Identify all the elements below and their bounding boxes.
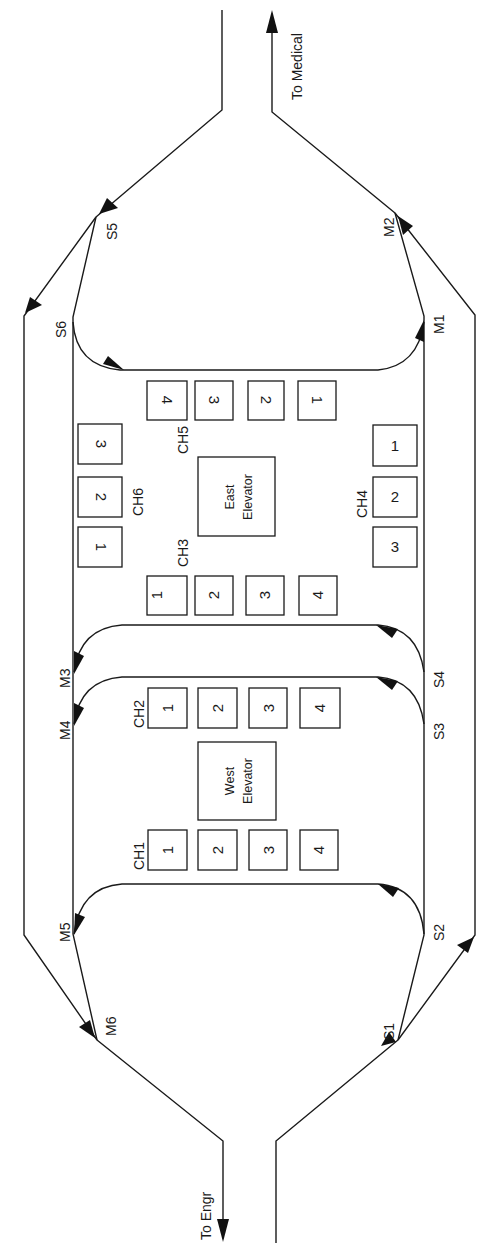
arrow-m3-icon [74, 651, 84, 674]
arrow-outer-left-top-icon [25, 297, 42, 313]
bottom-exit: To Engr [97, 1032, 398, 1243]
top-exit: To Medical [96, 10, 395, 217]
arrow-m1-icon [415, 320, 424, 342]
ch6-num-3: 3 [93, 440, 110, 448]
east-elevator-line2: Elevator [241, 474, 255, 520]
arrow-down-icon [217, 1219, 229, 1242]
node-m2: M2 [381, 217, 397, 237]
exit-label-medical: To Medical [289, 33, 305, 100]
arrow-up-icon [266, 10, 278, 33]
exit-label-engr: To Engr [198, 1191, 214, 1240]
node-s1: S1 [381, 1023, 397, 1040]
ch3-label: CH3 [175, 539, 191, 567]
path-s6-m1 [73, 322, 424, 370]
west-elevator-box [198, 742, 276, 820]
node-s5: S5 [104, 223, 120, 240]
arrow-m5-icon [74, 913, 85, 935]
node-m1: M1 [431, 314, 447, 334]
call-group-ch6: 3 2 1 CH6 [78, 424, 146, 567]
ch5-num-1: 1 [309, 396, 326, 404]
node-s6: S6 [53, 321, 69, 338]
ch2-num-1: 1 [159, 704, 176, 712]
path-top-inbound [96, 10, 222, 217]
node-s2: S2 [431, 924, 447, 941]
west-elevator-line2: Elevator [241, 758, 255, 804]
ch1-num-3: 3 [260, 846, 277, 854]
ch5-num-4: 4 [159, 396, 176, 404]
ch3-num-3: 3 [256, 591, 273, 599]
path-s4-m3 [74, 625, 424, 672]
node-s4: S4 [431, 671, 447, 688]
ch6-num-2: 2 [93, 493, 110, 501]
corridor-diagram: To Medical To Engr S5 S6 M2 M1 M3 M4 S4 [0, 0, 495, 1251]
node-m3: M3 [57, 668, 73, 688]
ch2-num-4: 4 [311, 704, 328, 712]
west-elevator-line1: West [223, 766, 237, 795]
ch5-num-3: 3 [206, 396, 223, 404]
ch3-num-2: 2 [205, 591, 222, 599]
node-m5: M5 [57, 922, 73, 942]
ch1-label: CH1 [131, 842, 147, 870]
ch2-label: CH2 [131, 700, 147, 728]
ch4-num-2: 2 [391, 488, 399, 505]
ch4-label: CH4 [354, 490, 370, 518]
arrow-outer-right-bottom-icon [457, 937, 474, 953]
outer-left-corridor [24, 217, 97, 1040]
outer-right-corridor [395, 213, 475, 1040]
ch6-label: CH6 [130, 488, 146, 516]
node-s3: S3 [431, 723, 447, 740]
ch2-num-2: 2 [209, 704, 226, 712]
call-group-ch5: 4 3 2 1 CH5 [147, 381, 336, 454]
ch4-num-1: 1 [391, 437, 399, 454]
ch3-num-4: 4 [309, 591, 326, 599]
arrow-m4-icon [74, 703, 84, 726]
call-group-ch1: 1 2 3 4 CH1 [131, 830, 338, 870]
ch1-num-2: 2 [209, 846, 226, 854]
ch6-num-1: 1 [93, 543, 110, 551]
east-elevator: East Elevator [198, 457, 275, 536]
node-m6: M6 [103, 1016, 119, 1036]
east-elevator-line1: East [223, 484, 237, 510]
path-bottom-inbound [276, 1040, 398, 1243]
ch5-num-2: 2 [258, 396, 275, 404]
west-elevator: West Elevator [198, 742, 276, 820]
node-m4: M4 [57, 720, 73, 740]
ch5-label: CH5 [175, 426, 191, 454]
call-group-ch2: 1 2 3 4 CH2 [131, 688, 340, 728]
ch1-num-1: 1 [159, 846, 176, 854]
ch3-num-1: 1 [148, 591, 165, 599]
ch1-num-4: 4 [310, 846, 327, 854]
ch4-num-3: 3 [391, 538, 399, 555]
ch2-num-3: 3 [260, 704, 277, 712]
call-group-ch3: 1 2 3 4 CH3 [147, 539, 337, 615]
path-s2-m5 [74, 884, 424, 934]
call-group-ch4: 1 2 3 CH4 [354, 425, 417, 567]
